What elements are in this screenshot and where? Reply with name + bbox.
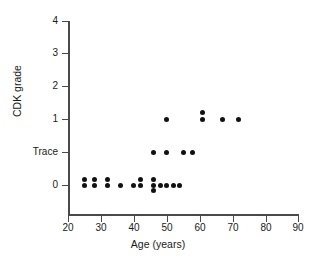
data-point [138, 177, 143, 182]
data-point [236, 117, 241, 122]
x-tick-label-70: 70 [221, 223, 245, 233]
data-point [200, 117, 205, 122]
y-tick-label-3: 3 [52, 48, 58, 58]
data-point [151, 150, 156, 155]
y-tick-label-trace: Trace [33, 147, 58, 157]
x-axis-line [68, 214, 299, 216]
data-point [118, 183, 123, 188]
data-point [151, 177, 156, 182]
y-tick-1 [62, 119, 68, 120]
data-point [200, 110, 205, 115]
y-tick-label-4: 4 [52, 16, 58, 26]
data-point [82, 183, 87, 188]
y-tick-0 [62, 185, 68, 186]
y-tick-4 [62, 21, 68, 22]
data-point [164, 117, 169, 122]
y-tick-3 [62, 53, 68, 54]
data-point [151, 183, 156, 188]
plot-area: 4 3 2 1 Trace 0 20 30 40 50 60 70 80 90 … [0, 0, 316, 259]
x-tick-label-50: 50 [155, 223, 179, 233]
data-point [92, 183, 97, 188]
x-tick-label-20: 20 [56, 223, 80, 233]
x-tick-label-60: 60 [188, 223, 212, 233]
y-tick-2 [62, 86, 68, 87]
x-tick-label-80: 80 [254, 223, 278, 233]
y-axis-line [68, 21, 70, 215]
data-point [138, 183, 143, 188]
data-point [220, 117, 225, 122]
x-tick-label-90: 90 [286, 223, 310, 233]
x-axis-title: Age (years) [0, 238, 316, 250]
y-tick-label-2: 2 [52, 81, 58, 91]
data-point [164, 183, 169, 188]
x-tick-label-30: 30 [89, 223, 113, 233]
data-point [92, 177, 97, 182]
data-point [105, 183, 110, 188]
x-tick-label-40: 40 [122, 223, 146, 233]
data-point [151, 188, 156, 193]
data-point [177, 183, 182, 188]
data-point [82, 177, 87, 182]
y-tick-label-0: 0 [52, 180, 58, 190]
data-point [158, 183, 163, 188]
scatter-chart: 4 3 2 1 Trace 0 20 30 40 50 60 70 80 90 … [0, 0, 316, 259]
data-point [190, 150, 195, 155]
y-tick-label-1: 1 [52, 114, 58, 124]
data-point [105, 177, 110, 182]
data-point [181, 150, 186, 155]
y-tick-trace [62, 152, 68, 153]
y-axis-title: CDK grade [11, 46, 23, 136]
data-point [171, 183, 176, 188]
data-point [131, 183, 136, 188]
data-point [164, 150, 169, 155]
